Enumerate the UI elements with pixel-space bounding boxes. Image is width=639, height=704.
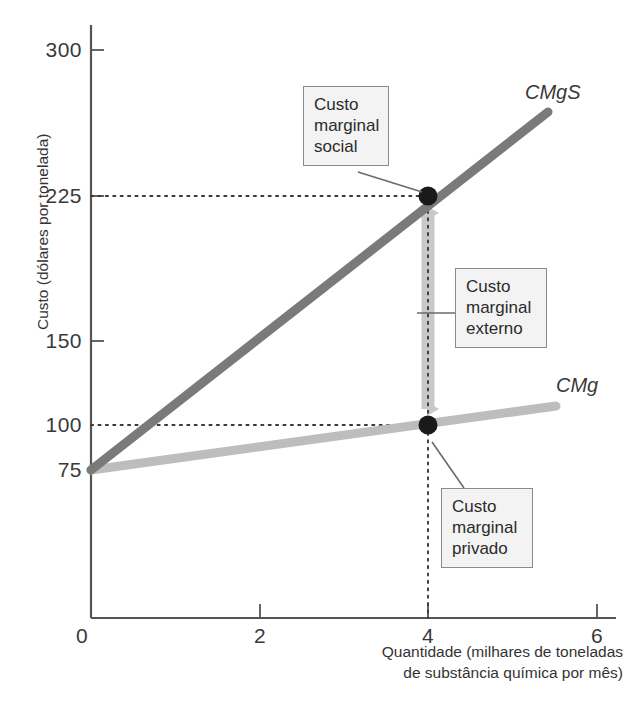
y-axis-title: Custo (dólares por tonelada)	[34, 134, 52, 330]
x-tick-0: 0	[71, 624, 93, 648]
custo-marginal-social-point	[419, 187, 438, 206]
x-axis-title-line1: Quantidade (milhares de toneladas	[323, 641, 623, 662]
x-tick-2: 2	[249, 624, 271, 648]
reference-lines	[91, 196, 428, 618]
y-tick-300: 300	[24, 38, 82, 62]
x-axis-title-line2: de substância química por mês)	[323, 662, 623, 683]
y-tick-100: 100	[24, 413, 82, 437]
cmg-label: CMg	[556, 374, 598, 397]
leader-privado	[432, 442, 464, 488]
y-tick-150: 150	[24, 329, 82, 353]
cmgs-label: CMgS	[525, 81, 581, 104]
leader-social	[358, 172, 422, 192]
callout-custo-marginal-privado: Custo marginal privado	[441, 488, 533, 568]
chart-canvas: 300 225 150 100 75 0 2 4 6 Custo (dólare…	[0, 0, 639, 704]
y-tick-225: 225	[24, 184, 82, 208]
custo-marginal-privado-point	[419, 416, 438, 435]
x-axis-title: Quantidade (milhares de toneladas de sub…	[323, 641, 623, 683]
callout-custo-marginal-externo: Custo marginal externo	[455, 268, 547, 348]
y-tick-75: 75	[24, 458, 82, 482]
callout-custo-marginal-social: Custo marginal social	[303, 86, 389, 166]
